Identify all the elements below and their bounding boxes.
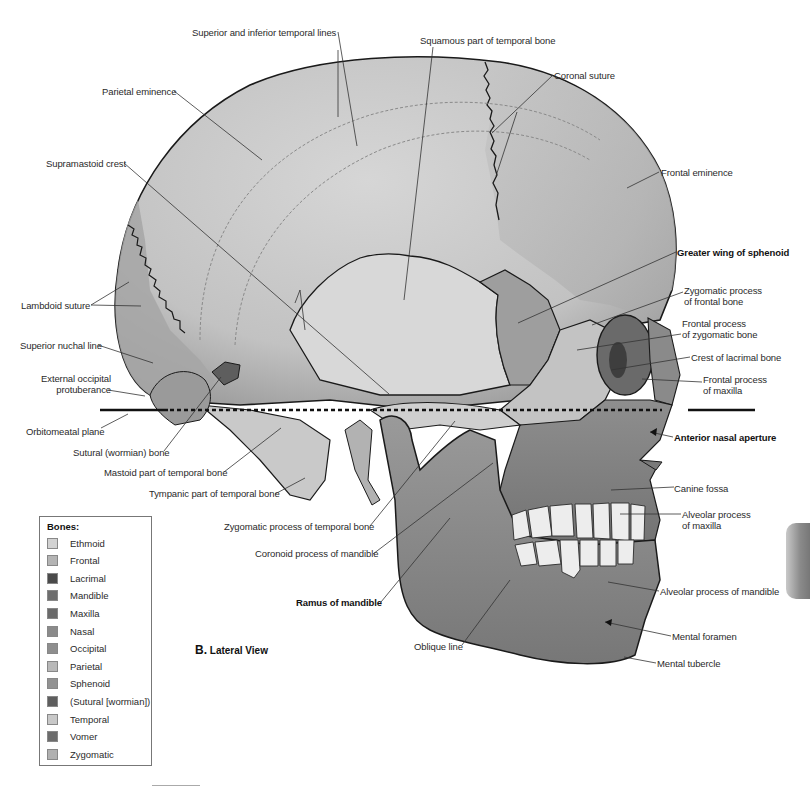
label-mental-tubercle: Mental tubercle [657,658,720,669]
legend-label: (Sutural [wormian]) [70,696,150,707]
legend-swatch [47,661,58,672]
legend-item: Maxilla [47,606,100,620]
legend-swatch [47,696,58,707]
legend-swatch [47,626,58,637]
legend-item: Frontal [47,554,100,568]
legend-swatch [47,555,58,566]
label-mastoid-temporal: Mastoid part of temporal bone [104,467,227,478]
label-lambdoid-suture: Lambdoid suture [21,300,90,311]
view-letter: B. [195,643,207,657]
legend-label: Occipital [70,643,106,654]
legend-swatch [47,714,58,725]
legend-item: Sphenoid [47,677,110,691]
label-crest-lacrimal: Crest of lacrimal bone [691,352,781,363]
legend-swatch [47,643,58,654]
label-mental-foramen: Mental foramen [672,631,737,642]
legend-swatch [47,608,58,619]
label-parietal-eminence: Parietal eminence [102,86,176,97]
legend-item: Temporal [47,712,109,726]
label-oblique-line: Oblique line [414,641,463,652]
label-alveolar-maxilla: Alveolar processof maxilla [682,509,751,531]
legend-swatch [47,678,58,689]
legend-label: Frontal [70,555,100,566]
label-frontal-eminence: Frontal eminence [661,167,733,178]
legend-swatch [47,590,58,601]
legend-item: Occipital [47,642,106,656]
legend-label: Parietal [70,661,102,672]
legend-label: Temporal [70,714,109,725]
legend-label: Maxilla [70,608,100,619]
legend-item: Lacrimal [47,571,106,585]
label-squamous-temporal: Squamous part of temporal bone [420,35,555,46]
legend-label: Lacrimal [70,573,106,584]
label-alveolar-mandible: Alveolar process of mandible [660,586,779,597]
legend-item: Mandible [47,589,109,603]
label-ramus-mandible: Ramus of mandible [296,597,382,608]
bones-legend: Bones: EthmoidFrontalLacrimalMandibleMax… [39,516,152,766]
legend-swatch [47,749,58,760]
view-name: Lateral View [210,645,268,656]
label-superior-nuchal-line: Superior nuchal line [20,340,102,351]
legend-label: Ethmoid [70,538,105,549]
label-superior-inferior-temporal-lines: Superior and inferior temporal lines [192,27,336,38]
label-greater-wing-sphenoid: Greater wing of sphenoid [677,247,789,258]
label-tympanic-temporal: Tympanic part of temporal bone [149,488,280,499]
label-orbitomeatal-plane: Orbitomeatal plane [26,426,104,437]
mastoid-temporal [200,405,330,500]
legend-label: Zygomatic [70,749,114,760]
view-title: B. Lateral View [195,643,268,657]
legend-item: (Sutural [wormian]) [47,694,150,708]
legend-item: Parietal [47,659,102,673]
legend-swatch [47,573,58,584]
legend-label: Mandible [70,590,109,601]
label-zygomatic-process-temporal: Zygomatic process of temporal bone [224,521,374,532]
label-sutural-wormian-bone: Sutural (wormian) bone [73,447,170,458]
legend-item: Nasal [47,624,94,638]
label-supramastoid-crest: Supramastoid crest [46,158,126,169]
legend-label: Vomer [70,731,97,742]
legend-label: Nasal [70,626,94,637]
label-canine-fossa: Canine fossa [674,483,728,494]
legend-title: Bones: [47,521,79,532]
legend-label: Sphenoid [70,678,110,689]
styloid-process [345,420,380,505]
legend-swatch [47,731,58,742]
label-frontal-process-maxilla: Frontal processof maxilla [703,374,767,396]
page-side-tab [786,523,810,599]
legend-item: Vomer [47,730,97,744]
label-coronal-suture: Coronal suture [554,70,615,81]
legend-swatch [47,538,58,549]
label-zygomatic-process-frontal: Zygomatic processof frontal bone [684,285,762,307]
label-external-occipital-protuberance: External occipitalprotuberance [41,373,111,395]
footer-rule [152,785,200,786]
legend-item: Zygomatic [47,747,114,761]
legend-item: Ethmoid [47,536,105,550]
lacrimal-fossa [609,342,627,378]
label-coronoid-mandible: Coronoid process of mandible [255,548,378,559]
label-frontal-process-zygomatic: Frontal processof zygomatic bone [682,318,757,340]
label-anterior-nasal-aperture: Anterior nasal aperture [674,432,776,443]
